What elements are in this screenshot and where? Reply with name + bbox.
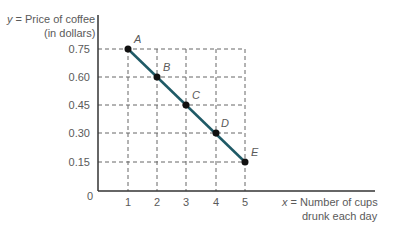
y-axis-label-line2: (in dollars) — [44, 27, 95, 39]
y-tick: 0.60 — [60, 71, 90, 83]
x-tick: 1 — [122, 196, 134, 208]
y-tick: 0.15 — [60, 156, 90, 168]
point-d — [213, 130, 220, 137]
point-b — [154, 74, 161, 81]
point-label-e: E — [251, 146, 258, 158]
y-axis-label-line1: y = Price of coffee — [7, 13, 95, 25]
y-tick: 0.30 — [60, 127, 90, 139]
x-label-text: = Number of cups — [288, 196, 378, 208]
x-tick: 3 — [180, 196, 192, 208]
x-axis-label-line1: x = Number of cups — [282, 196, 378, 208]
x-tick: 5 — [239, 196, 251, 208]
y-label-text: = Price of coffee — [13, 13, 96, 25]
x-axis-label-line2: drunk each day — [302, 210, 377, 222]
point-c — [183, 102, 190, 109]
origin-label: 0 — [87, 190, 93, 202]
point-label-a: A — [134, 33, 141, 45]
x-tick: 4 — [210, 196, 222, 208]
point-e — [242, 159, 249, 166]
point-label-b: B — [163, 61, 170, 73]
x-tick: 2 — [151, 196, 163, 208]
y-tick: 0.45 — [60, 99, 90, 111]
point-label-c: C — [192, 89, 200, 101]
point-label-d: D — [221, 117, 229, 129]
y-tick: 0.75 — [60, 43, 90, 55]
point-a — [125, 46, 132, 53]
